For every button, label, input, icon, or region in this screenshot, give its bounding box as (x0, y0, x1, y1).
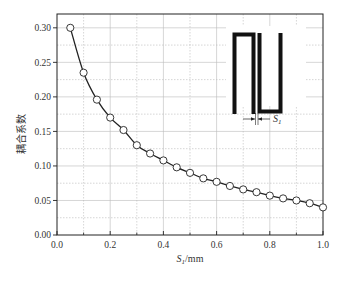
data-point-marker (147, 150, 154, 157)
y-axis-label: 耦合系数 (15, 114, 27, 154)
data-point-marker (120, 126, 127, 133)
data-point-marker (319, 204, 326, 211)
x-tick-label: 0.2 (104, 240, 116, 250)
data-point-marker (67, 24, 74, 31)
y-tick-label: 0.00 (34, 230, 51, 240)
data-point-marker (93, 96, 100, 103)
data-point-marker (200, 175, 207, 182)
data-point-marker (240, 186, 247, 193)
data-point-marker (280, 195, 287, 202)
data-point-marker (186, 169, 193, 176)
y-axis-ticks: 0.000.050.100.150.200.250.30 (34, 23, 57, 240)
x-tick-label: 0.4 (157, 240, 169, 250)
data-point-marker (306, 200, 313, 207)
data-point-marker (80, 69, 87, 76)
y-tick-label: 0.20 (34, 92, 51, 102)
y-tick-label: 0.10 (34, 161, 51, 171)
gap-label: S1 (273, 113, 282, 126)
data-point-marker (133, 142, 140, 149)
hairpin-resonator-inset: S1 (226, 26, 306, 126)
data-point-marker (107, 114, 114, 121)
data-point-marker (293, 197, 300, 204)
y-tick-label: 0.05 (34, 196, 51, 206)
data-point-marker (213, 178, 220, 185)
data-point-marker (266, 192, 273, 199)
data-point-marker (253, 189, 260, 196)
x-axis-ticks: 0.00.20.40.60.81.0 (51, 231, 329, 250)
x-tick-label: 0.6 (211, 240, 223, 250)
y-tick-label: 0.15 (34, 127, 51, 137)
y-tick-label: 0.25 (34, 58, 51, 68)
coupling-coefficient-chart: 0.000.050.100.150.200.250.30 0.00.20.40.… (0, 0, 345, 283)
data-point-marker (160, 157, 167, 164)
data-point-marker (226, 182, 233, 189)
x-axis-label: S1/mm (177, 253, 204, 266)
y-tick-label: 0.30 (34, 23, 51, 33)
data-point-marker (173, 164, 180, 171)
x-tick-label: 0.8 (264, 240, 276, 250)
x-tick-label: 0.0 (51, 240, 63, 250)
x-tick-label: 1.0 (317, 240, 329, 250)
